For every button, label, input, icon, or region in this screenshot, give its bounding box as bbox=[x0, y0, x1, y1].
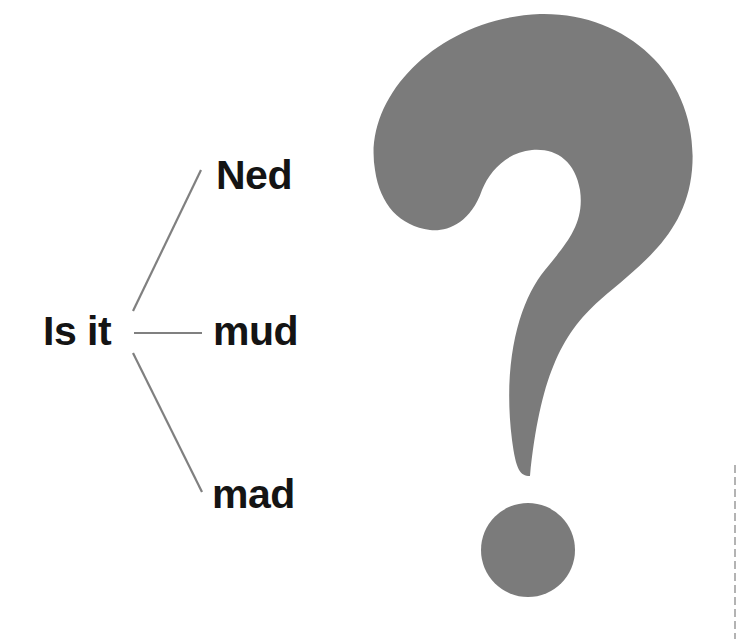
stem-label: Is it bbox=[43, 311, 111, 352]
option-mud: mud bbox=[213, 311, 298, 352]
diagram-canvas: Is it Ned mud mad bbox=[0, 0, 738, 639]
option-ned: Ned bbox=[216, 155, 292, 196]
option-mad: mad bbox=[212, 474, 295, 515]
